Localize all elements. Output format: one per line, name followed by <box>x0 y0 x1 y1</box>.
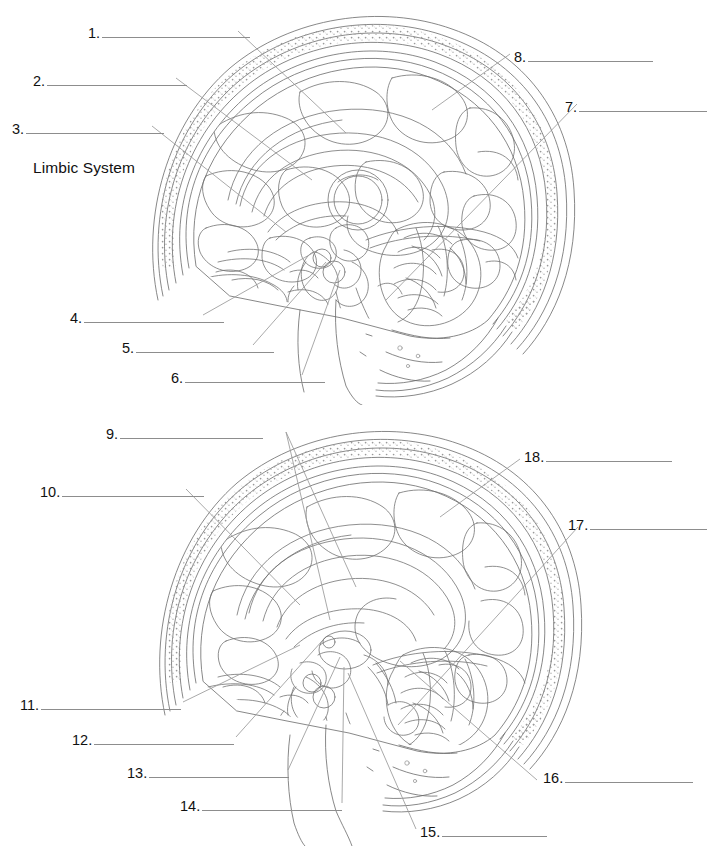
leader-16 <box>400 661 537 780</box>
answer-rule-8[interactable] <box>528 61 653 62</box>
label-number-2: 2. <box>33 74 45 89</box>
answer-rule-6[interactable] <box>185 382 325 383</box>
answer-rule-2[interactable] <box>47 85 187 86</box>
label-number-3: 3. <box>12 122 24 137</box>
leader-5 <box>253 262 326 345</box>
leader-1 <box>238 31 346 133</box>
label-number-10: 10. <box>40 485 60 500</box>
answer-rule-13[interactable] <box>149 777 289 778</box>
answer-rule-14[interactable] <box>202 810 342 811</box>
label-blank-16[interactable]: 16. <box>543 767 693 786</box>
answer-rule-18[interactable] <box>546 461 672 462</box>
label-blank-3[interactable]: 3. <box>12 118 164 137</box>
leader-2 <box>176 78 312 180</box>
leader-9b <box>286 432 330 620</box>
label-number-14: 14. <box>180 799 200 814</box>
label-blank-14[interactable]: 14. <box>180 795 342 814</box>
answer-rule-10[interactable] <box>62 496 204 497</box>
panel-title-limbic: Limbic System <box>33 158 135 178</box>
panel-brain-ventricles: Brain Ventricles – sagittal view 9. 10. … <box>0 405 707 846</box>
label-number-12: 12. <box>72 733 92 748</box>
label-blank-17[interactable]: 17. <box>568 514 707 533</box>
panel-limbic-system: Limbic System 1. 2. 3. 4. 5. 6. 7. 8. <box>0 0 707 405</box>
answer-rule-9[interactable] <box>120 438 263 439</box>
label-blank-15[interactable]: 15. <box>420 821 547 840</box>
label-blank-8[interactable]: 8. <box>514 46 653 65</box>
label-number-7: 7. <box>565 100 577 115</box>
leader-7 <box>386 104 577 300</box>
leader-17 <box>398 527 578 725</box>
label-blank-7[interactable]: 7. <box>565 96 707 115</box>
leader-9a <box>286 432 356 587</box>
leader-6 <box>302 270 340 375</box>
label-blank-5[interactable]: 5. <box>122 337 274 356</box>
label-blank-11[interactable]: 11. <box>20 694 181 713</box>
label-number-11: 11. <box>20 698 39 713</box>
leader-15 <box>348 673 416 829</box>
label-blank-6[interactable]: 6. <box>171 367 325 386</box>
label-blank-13[interactable]: 13. <box>127 762 289 781</box>
label-number-15: 15. <box>420 825 440 840</box>
leader-10 <box>186 489 300 605</box>
answer-rule-16[interactable] <box>565 782 693 783</box>
answer-rule-11[interactable] <box>41 709 181 710</box>
label-blank-12[interactable]: 12. <box>72 729 234 748</box>
label-number-5: 5. <box>122 341 134 356</box>
label-number-18: 18. <box>524 450 544 465</box>
label-number-4: 4. <box>70 311 82 326</box>
label-blank-10[interactable]: 10. <box>40 481 204 500</box>
leader-14 <box>342 667 344 803</box>
label-number-6: 6. <box>171 371 183 386</box>
answer-rule-17[interactable] <box>590 529 707 530</box>
answer-rule-3[interactable] <box>26 133 164 134</box>
label-blank-4[interactable]: 4. <box>70 307 224 326</box>
leader-13 <box>288 657 340 770</box>
answer-rule-5[interactable] <box>136 352 274 353</box>
label-number-1: 1. <box>88 26 100 41</box>
leader-8 <box>432 54 510 110</box>
answer-rule-15[interactable] <box>442 836 547 837</box>
answer-rule-4[interactable] <box>84 322 224 323</box>
label-number-8: 8. <box>514 50 526 65</box>
answer-rule-7[interactable] <box>579 111 707 112</box>
label-number-13: 13. <box>127 766 147 781</box>
answer-rule-1[interactable] <box>102 37 250 38</box>
leader-3 <box>152 126 286 232</box>
label-blank-9[interactable]: 9. <box>106 423 263 442</box>
label-blank-18[interactable]: 18. <box>524 446 672 465</box>
label-number-16: 16. <box>543 771 563 786</box>
label-blank-2[interactable]: 2. <box>33 70 187 89</box>
leader-18 <box>440 459 520 517</box>
label-number-9: 9. <box>106 427 118 442</box>
leader-4 <box>203 250 318 315</box>
label-blank-1[interactable]: 1. <box>88 22 250 41</box>
leader-11 <box>183 645 300 702</box>
answer-rule-12[interactable] <box>94 744 234 745</box>
label-number-17: 17. <box>568 518 588 533</box>
